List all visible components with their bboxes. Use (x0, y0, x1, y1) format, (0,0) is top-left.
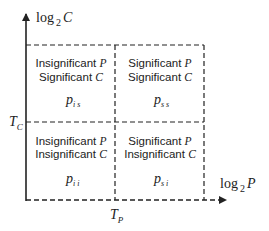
svg-text:pi i: pi i (65, 171, 79, 188)
svg-text:Insignificant C: Insignificant C (35, 148, 107, 160)
svg-text:pi s: pi s (65, 92, 80, 109)
svg-text:ps i: ps i (153, 171, 168, 188)
svg-text:Significant P: Significant P (128, 135, 191, 147)
quadrant-top-right: Significant P Significant C ps s (128, 57, 192, 109)
quadrant-bottom-left: Insignificant P Insignificant C pi i (35, 135, 107, 188)
x-axis-label: log2P (220, 176, 256, 194)
diagram-canvas: log2C log2P TC TP Insignificant P Signif… (0, 0, 269, 231)
quadrant-bottom-right: Significant P Insignificant C ps i (124, 135, 196, 188)
quadrant-diagram: log2C log2P TC TP Insignificant P Signif… (0, 0, 269, 231)
quadrant-top-left: Insignificant P Significant C pi s (36, 57, 107, 109)
svg-text:Significant C: Significant C (128, 71, 192, 83)
tp-label: TP (110, 207, 124, 225)
svg-text:Significant P: Significant P (128, 57, 191, 69)
svg-text:Insignificant P: Insignificant P (36, 135, 107, 147)
svg-text:Insignificant C: Insignificant C (124, 148, 196, 160)
svg-text:ps s: ps s (153, 92, 169, 109)
svg-text:Significant C: Significant C (39, 71, 103, 83)
y-axis-label: log2C (36, 10, 73, 28)
svg-text:Insignificant P: Insignificant P (36, 57, 107, 69)
tc-label: TC (9, 114, 24, 132)
